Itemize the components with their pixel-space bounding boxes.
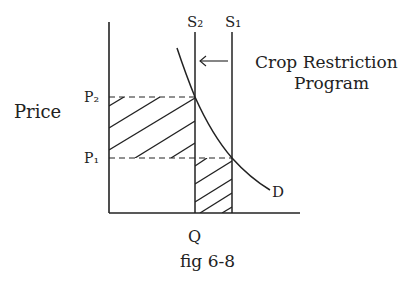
left-arrow-icon	[200, 56, 228, 66]
diagram-title-line2: Program	[294, 73, 369, 93]
supply-s2-label: S₂	[187, 13, 203, 31]
crop-restriction-diagram: S₂ S₁ P₂ P₁ Price Q D fig 6-8 Crop Restr…	[0, 0, 410, 297]
price-p1-label: P₁	[84, 150, 99, 166]
x-axis-label: Q	[188, 227, 201, 246]
supply-s1-label: S₁	[225, 13, 241, 31]
hatched-revenue-gain-area	[109, 97, 195, 158]
demand-label: D	[272, 183, 284, 201]
y-axis-label: Price	[14, 101, 61, 122]
diagram-title-line1: Crop Restriction	[255, 52, 398, 72]
price-p2-label: P₂	[84, 89, 99, 105]
figure-caption: fig 6-8	[180, 251, 235, 271]
hatched-revenue-loss-area	[195, 158, 232, 213]
